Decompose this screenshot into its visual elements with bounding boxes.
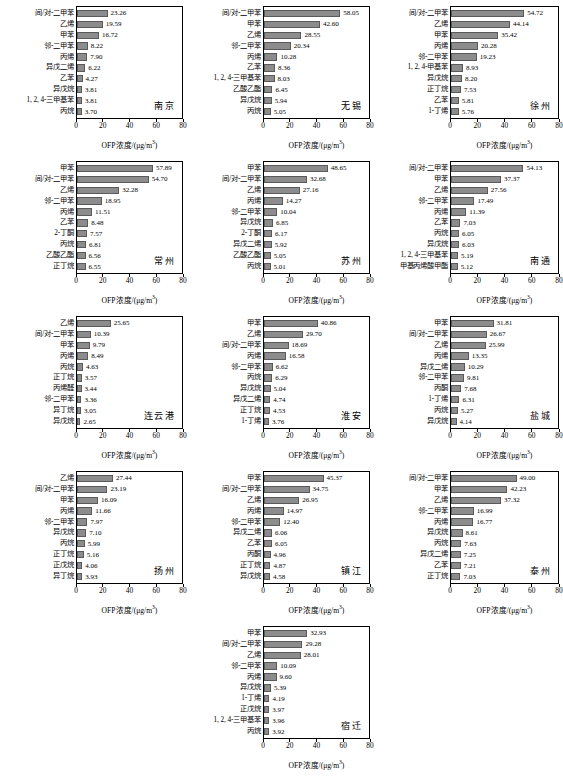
chart-cell-6: 乙烯间/对-二甲苯甲苯丙烯丙烷正丁烷丙烯醛邻-二甲苯异丁烷异戊烷25.6510.… <box>0 310 187 465</box>
category-label: 乙烯 <box>2 318 76 329</box>
bar <box>77 108 82 115</box>
bar <box>77 385 82 392</box>
bar <box>451 230 459 237</box>
bar-value-label: 8.20 <box>465 75 477 83</box>
chart-cell-empty-left <box>0 620 187 777</box>
category-label: 异戊烷 <box>2 527 76 538</box>
bar-value-label: 11.39 <box>469 208 485 216</box>
chart-cell-9: 乙烯间/对-二甲苯甲苯丙烯邻-二甲苯异戊烷丙烷正丁烷正戊烷异丁烷27.4423.… <box>0 465 187 620</box>
bar <box>264 507 284 514</box>
bar <box>451 320 494 327</box>
bar-row: 23.26 <box>77 9 182 18</box>
bar-value-label: 29.70 <box>306 330 322 338</box>
x-axis-tick-label: 20 <box>474 586 481 595</box>
bar <box>77 32 99 39</box>
category-label: 乙烯 <box>376 340 450 351</box>
x-axis-tick-label: 0 <box>448 431 452 440</box>
chart-grid: 间/对-二甲苯乙烯甲苯邻-二甲苯丙烯异戊二烯乙苯异戊烷1, 2, 4-三甲基苯丙… <box>0 0 563 777</box>
bar-row: 26.95 <box>264 496 369 505</box>
bar <box>77 187 119 194</box>
bar <box>264 673 277 680</box>
x-axis-tick-label: 0 <box>448 586 452 595</box>
bar-row: 35.42 <box>451 31 558 40</box>
category-axis: 间/对-二甲苯甲苯乙烯邻-二甲苯丙烯异戊烷丙烷异戊二烯乙苯正丁烷 <box>376 471 450 584</box>
x-axis-tick-label: 0 <box>261 586 265 595</box>
category-label: 异戊二烯 <box>376 549 450 560</box>
bar-row: 7.10 <box>77 529 182 538</box>
bar <box>77 497 98 504</box>
bar-row: 6.81 <box>77 240 182 249</box>
bar <box>264 165 328 172</box>
x-axis-tick-label: 40 <box>313 741 320 750</box>
x-axis-title-main: OFP浓度/(μg/m <box>102 296 152 305</box>
x-axis-title: OFP浓度/(μg/m3) <box>263 604 370 615</box>
bar-value-label: 17.49 <box>477 197 493 205</box>
bar-value-label: 23.26 <box>111 9 127 17</box>
bar-row: 16.72 <box>77 31 182 40</box>
bar-value-label: 19.23 <box>480 53 496 61</box>
bar <box>264 352 286 359</box>
bar-value-label: 18.69 <box>292 341 308 349</box>
bar-chart-徐州: 间/对-二甲苯乙烯甲苯丙烯邻-二甲苯1, 2, 4-甲基苯异戊烷正丁烷乙苯1-丁… <box>374 0 563 155</box>
bar-value-label: 29.28 <box>305 640 321 648</box>
plot-area: 49.0042.2337.3216.9916.778.617.637.257.2… <box>450 471 559 584</box>
bar-value-label: 5.94 <box>275 97 287 105</box>
city-annotation: 盐城 <box>530 409 551 422</box>
bar-value-label: 5.81 <box>462 97 474 105</box>
chart-cell-2: 间/对-二甲苯乙烯甲苯丙烯邻-二甲苯1, 2, 4-甲基苯异戊烷正丁烷乙苯1-丁… <box>374 0 563 155</box>
category-label: 甲苯 <box>189 19 263 30</box>
x-axis-tick-label: 40 <box>501 276 508 285</box>
x-axis-title-main: OFP浓度/(μg/m <box>102 141 152 150</box>
category-label: 乙烯 <box>2 473 76 484</box>
bar <box>451 507 474 514</box>
bar-value-label: 7.21 <box>464 562 476 570</box>
plot-wrap: 甲苯间/对-二甲苯乙烯邻-二甲苯丙烯异戊烷1-丁烯正戊烷1, 2, 4-三甲基苯… <box>189 626 370 739</box>
bar <box>264 486 310 493</box>
bar <box>77 21 103 28</box>
bar-value-label: 6.17 <box>275 230 287 238</box>
bar-row: 6.85 <box>264 219 369 228</box>
bar-value-label: 37.37 <box>504 175 520 183</box>
bar-chart-镇江: 甲苯间/对-二甲苯乙烯丙烯邻-二甲苯异戊二烯乙苯丙酮正丁烷异戊烷45.3734.… <box>187 465 374 620</box>
bar-row: 44.14 <box>451 20 558 29</box>
bar-value-label: 3.36 <box>84 396 96 404</box>
x-axis-title-main: OFP浓度/(μg/m <box>289 141 339 150</box>
bar-row: 6.03 <box>451 240 558 249</box>
category-label: 正丁烷 <box>189 405 263 416</box>
bar-row: 27.56 <box>451 186 558 195</box>
category-label: 正丁烷 <box>2 261 76 272</box>
category-label: 1-丁烯 <box>189 693 263 704</box>
bar-value-label: 32.68 <box>310 175 326 183</box>
category-label: 丙烯 <box>376 517 450 528</box>
bar-row: 5.99 <box>77 540 182 549</box>
bar <box>451 518 473 525</box>
category-label: 丙烯 <box>189 196 263 207</box>
chart-cell-3: 甲苯间/对-二甲苯乙烯邻-二甲苯丙烯乙苯2-丁酮丙烷乙酸乙酯正丁烷57.8954… <box>0 155 187 310</box>
bar-value-label: 5.27 <box>461 407 473 415</box>
bar-value-label: 27.56 <box>491 186 507 194</box>
bar <box>264 385 271 392</box>
bar-row: 58.05 <box>264 9 369 18</box>
bar-value-label: 6.85 <box>276 219 288 227</box>
x-axis-title-main: OFP浓度/(μg/m <box>289 761 339 770</box>
category-axis: 甲苯间/对-二甲苯乙烯丙烯邻-二甲苯异戊二烯乙苯丙酮正丁烷异戊烷 <box>189 471 263 584</box>
bar-value-label: 14.27 <box>286 197 302 205</box>
x-axis-tick-label: 0 <box>261 121 265 130</box>
category-label: 异戊烷 <box>2 84 76 95</box>
bar-value-label: 5.12 <box>461 263 473 271</box>
bar-row: 6.06 <box>264 529 369 538</box>
x-axis-title-close: ) <box>155 451 158 460</box>
bar-value-label: 8.49 <box>91 352 103 360</box>
bar-value-label: 31.81 <box>497 319 513 327</box>
category-label: 邻-二甲苯 <box>189 517 263 528</box>
plot-area: 27.4423.1916.0911.667.977.105.995.164.06… <box>76 471 183 584</box>
bar <box>264 64 275 71</box>
bar <box>264 263 271 270</box>
bar-value-label: 8.36 <box>278 64 290 72</box>
bar <box>77 551 84 558</box>
bar-chart-南京: 间/对-二甲苯乙烯甲苯邻-二甲苯丙烯异戊二烯乙苯异戊烷1, 2, 4-三甲基苯丙… <box>0 0 187 155</box>
bar <box>264 97 272 104</box>
bar-row: 32.28 <box>77 186 182 195</box>
bar <box>77 165 153 172</box>
bar <box>451 551 461 558</box>
